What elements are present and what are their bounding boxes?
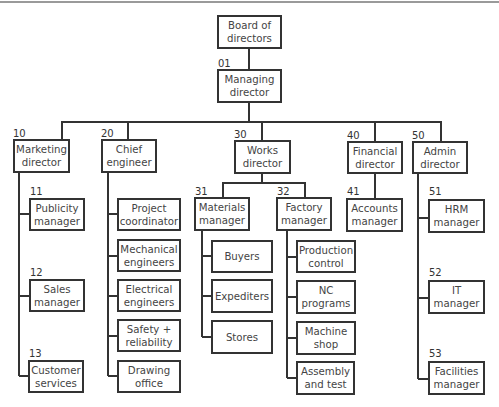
code-managing-director: 01: [218, 59, 231, 69]
node-hrm-manager: HRM manager: [428, 199, 485, 233]
node-assembly-and-test: Assembly and test: [296, 361, 355, 395]
node-chief-engineer: Chief engineer: [101, 139, 157, 173]
node-it-manager: IT manager: [428, 280, 485, 314]
code-financial-director: 40: [347, 131, 360, 141]
node-board-of-directors: Board of directors: [217, 15, 282, 49]
node-works-director: Works director: [234, 140, 291, 174]
node-nc-programs: NC programs: [296, 280, 356, 314]
code-factory-manager: 32: [277, 187, 290, 197]
node-safety-reliability: Safety + reliability: [117, 319, 181, 352]
node-materials-manager: Materials manager: [194, 197, 250, 231]
code-admin-director: 50: [412, 131, 425, 141]
node-project-coordinator: Project coordinator: [117, 198, 181, 231]
node-mechanical-engineers: Mechanical engineers: [117, 239, 181, 272]
code-publicity-manager: 11: [30, 187, 43, 197]
code-customer-services: 13: [29, 349, 42, 359]
code-facilities-manager: 53: [429, 349, 442, 359]
code-materials-manager: 31: [195, 187, 208, 197]
node-accounts-manager: Accounts manager: [346, 198, 403, 232]
node-admin-director: Admin director: [412, 141, 468, 174]
code-it-manager: 52: [429, 268, 442, 278]
node-production-control: Production control: [296, 240, 356, 273]
node-publicity-manager: Publicity manager: [29, 198, 85, 231]
code-marketing-director: 10: [13, 129, 26, 139]
node-marketing-director: Marketing director: [13, 139, 70, 173]
code-accounts-manager: 41: [347, 187, 360, 197]
code-chief-engineer: 20: [101, 129, 114, 139]
node-drawing-office: Drawing office: [117, 360, 181, 393]
code-works-director: 30: [234, 130, 247, 140]
node-machine-shop: Machine shop: [296, 321, 356, 355]
node-stores: Stores: [211, 320, 273, 354]
code-sales-manager: 12: [30, 268, 43, 278]
node-financial-director: Financial director: [347, 141, 403, 174]
code-hrm-manager: 51: [429, 187, 442, 197]
node-expediters: Expediters: [211, 279, 273, 313]
node-factory-manager: Factory manager: [276, 197, 332, 231]
node-buyers: Buyers: [211, 240, 273, 273]
node-sales-manager: Sales manager: [29, 279, 85, 312]
node-managing-director: Managing director: [217, 69, 282, 103]
node-electrical-engineers: Electrical engineers: [117, 279, 181, 312]
node-customer-services: Customer services: [28, 360, 84, 393]
node-facilities-manager: Facilities manager: [428, 361, 485, 395]
